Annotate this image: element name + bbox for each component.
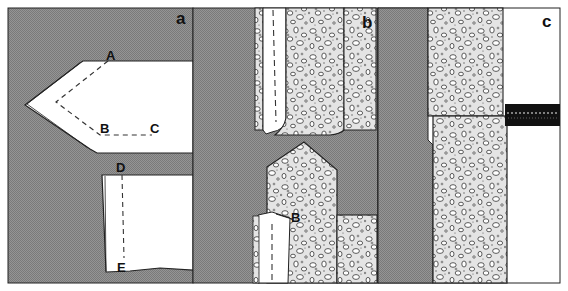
panel-c: c bbox=[378, 8, 560, 283]
point-label-b: B bbox=[100, 121, 109, 136]
panel-label-b: b bbox=[362, 13, 372, 32]
panel-label-a: a bbox=[176, 9, 186, 28]
point-label-d: D bbox=[116, 160, 125, 175]
dark-joint-band bbox=[505, 104, 560, 126]
upper-stone-column bbox=[428, 8, 503, 116]
rectangular-sheet bbox=[102, 175, 193, 272]
point-label-a: A bbox=[106, 48, 116, 63]
panel-b: b B bbox=[193, 8, 378, 283]
point-label-e: E bbox=[117, 260, 126, 275]
three-panel-diagram: a A B C D E b B bbox=[0, 0, 568, 291]
point-label-c: C bbox=[150, 121, 160, 136]
panel-a: a A B C D E bbox=[8, 8, 193, 283]
point-label-b-panel-b: B bbox=[291, 210, 300, 225]
panel-label-c: c bbox=[542, 12, 551, 31]
lower-paper-strip bbox=[258, 212, 290, 283]
lower-stone-column bbox=[433, 116, 507, 283]
